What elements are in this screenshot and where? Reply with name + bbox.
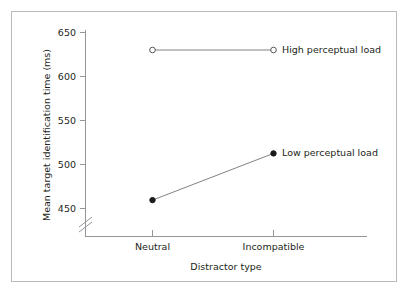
series-high-label: High perceptual load	[282, 44, 381, 55]
series-low-point-neutral	[150, 197, 155, 202]
interaction-plot: 650 600 550 500 450 Neutral Incompatible…	[0, 0, 413, 296]
series-low-point-incompatible	[271, 151, 276, 156]
chart-svg: 650 600 550 500 450 Neutral Incompatible…	[0, 0, 413, 296]
y-tick-label-450: 450	[58, 203, 76, 214]
y-tick-label-600: 600	[58, 71, 76, 82]
x-category-label-incompatible: Incompatible	[243, 241, 305, 252]
series-high-perceptual-load: High perceptual load	[150, 44, 381, 55]
y-tick-label-650: 650	[58, 27, 76, 38]
y-tick-label-500: 500	[58, 159, 76, 170]
series-low-label: Low perceptual load	[282, 147, 378, 158]
series-low-perceptual-load: Low perceptual load	[150, 147, 378, 203]
series-high-point-neutral	[150, 47, 156, 53]
series-high-point-incompatible	[271, 47, 277, 53]
y-tick-label-550: 550	[58, 115, 76, 126]
series-low-line	[153, 153, 274, 200]
y-axis-title: Mean target identification time (ms)	[41, 49, 52, 221]
x-category-label-neutral: Neutral	[135, 241, 170, 252]
x-axis-title: Distractor type	[190, 261, 261, 272]
